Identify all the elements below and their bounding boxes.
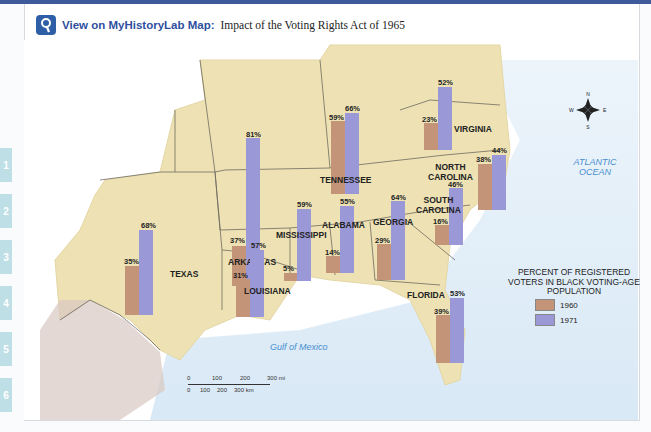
state-label-tennessee: TENNESSEE [320, 176, 372, 186]
label-south-carolina-1960: 16% [433, 217, 448, 226]
state-label-alabama: ALABAMA [322, 221, 365, 231]
legend-label-1971: 1971 [560, 316, 578, 325]
magnifier-icon[interactable] [36, 15, 56, 35]
bar-virginia-1971 [438, 87, 452, 150]
label-florida-1971: 53% [450, 289, 465, 298]
scale-line [188, 384, 270, 385]
bar-georgia-1971 [391, 201, 405, 280]
label-virginia-1960: 23% [422, 115, 437, 124]
label-north-carolina-1971: 44% [492, 146, 507, 155]
label-mississippi-1960: 5% [283, 264, 294, 273]
state-label-north-carolina: NORTHCAROLINA [428, 163, 473, 182]
label-mississippi-1971: 59% [297, 200, 312, 209]
legend-label-1960: 1960 [560, 301, 578, 310]
label-alabama-1960: 14% [325, 248, 340, 257]
state-label-south-carolina-line2: CAROLINA [416, 205, 461, 215]
label-louisiana-1960: 31% [233, 271, 248, 280]
legend-item-1971: 1971 [535, 314, 578, 326]
bar-mississippi-1960 [284, 273, 298, 281]
atlantic-ocean-label: ATLANTIC OCEAN [568, 157, 622, 177]
state-label-north-carolina-line2: CAROLINA [428, 172, 473, 182]
bar-alabama-1960 [326, 256, 340, 273]
bar-florida-1960 [436, 315, 450, 363]
label-florida-1960: 39% [434, 307, 449, 316]
bar-south-carolina-1960 [435, 225, 449, 245]
side-tab-4[interactable]: 4 [0, 286, 12, 320]
label-virginia-1971: 52% [438, 78, 453, 87]
side-tab-1[interactable]: 1 [0, 148, 12, 182]
bar-alabama-1971 [340, 206, 354, 273]
bar-texas-1971 [139, 230, 153, 315]
legend-title: PERCENT OF REGISTERED VOTERS IN BLACK VO… [508, 268, 640, 297]
scale-mi-100: 100 [212, 375, 222, 381]
view-map-link[interactable]: View on MyHistoryLab Map: [62, 19, 215, 31]
svg-text:W: W [569, 107, 574, 113]
bar-florida-1971 [450, 298, 464, 363]
label-louisiana-1971: 57% [251, 241, 266, 250]
map-title: Impact of the Voting Rights Act of 1965 [221, 19, 406, 31]
bar-texas-1960 [125, 266, 139, 315]
label-north-carolina-1960: 38% [476, 155, 491, 164]
scale-km-200: 200 [217, 387, 227, 393]
state-label-georgia: GEORGIA [373, 218, 413, 228]
label-georgia-1971: 64% [391, 193, 406, 202]
label-tennessee-1960: 59% [329, 113, 344, 122]
legend-title-line3: POPULATION [508, 287, 640, 297]
label-arkansas-1971: 81% [246, 130, 261, 139]
label-alabama-1971: 55% [340, 197, 355, 206]
side-tab-2[interactable]: 2 [0, 194, 12, 228]
bar-north-carolina-1960 [478, 164, 492, 210]
label-arkansas-1960: 37% [230, 236, 245, 245]
state-label-louisiana: LOUISIANA [244, 287, 291, 297]
state-label-texas: TEXAS [170, 270, 198, 280]
legend-swatch-1960 [535, 299, 555, 311]
label-tennessee-1971: 66% [345, 104, 360, 113]
bar-virginia-1960 [424, 123, 438, 150]
scale-km-0: 0 [187, 387, 190, 393]
scale-mi-300: 300 mi [267, 375, 285, 381]
side-tab-6[interactable]: 6 [0, 378, 12, 412]
map-header: View on MyHistoryLab Map: Impact of the … [36, 14, 405, 36]
bar-louisiana-1971 [250, 250, 264, 317]
state-label-south-carolina: SOUTHCAROLINA [416, 196, 461, 215]
legend-swatch-1971 [535, 314, 555, 326]
label-georgia-1960: 29% [375, 236, 390, 245]
state-label-florida: FLORIDA [407, 291, 445, 301]
side-tab-5[interactable]: 5 [0, 332, 12, 366]
svg-text:N: N [586, 91, 590, 97]
bar-north-carolina-1971 [492, 155, 506, 210]
bar-louisiana-1960 [236, 279, 250, 317]
scale-km-300: 300 km [234, 387, 254, 393]
legend-item-1960: 1960 [535, 299, 578, 311]
label-texas-1960: 35% [124, 257, 139, 266]
scale-mi-200: 200 [240, 375, 250, 381]
bar-georgia-1960 [377, 244, 391, 280]
state-label-virginia: VIRGINIA [454, 125, 492, 135]
scale-km-100: 100 [200, 387, 210, 393]
state-label-north-carolina-line1: NORTH [435, 162, 465, 172]
bar-mississippi-1971 [297, 209, 311, 281]
state-label-south-carolina-line1: SOUTH [424, 195, 454, 205]
gulf-of-mexico-label: Gulf of Mexico [270, 342, 328, 352]
scale-mi-0: 0 [187, 375, 190, 381]
side-tab-3[interactable]: 3 [0, 240, 12, 274]
state-label-mississippi: MISSISSIPPI [276, 231, 327, 241]
scale-bar: 0 100 200 300 mi 0 100 200 300 km [187, 375, 307, 401]
label-texas-1971: 68% [141, 221, 156, 230]
